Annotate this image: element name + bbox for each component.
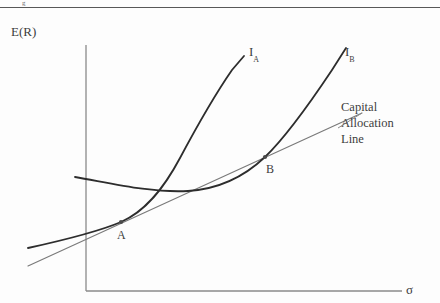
y-axis-label: E(R): [11, 25, 36, 39]
capital-allocation-line-annotation: Capital Allocation Line: [341, 99, 394, 147]
x-axis-label: σ: [406, 283, 413, 297]
tangency-point-b: [263, 155, 267, 159]
curve-label-ib-subscript: B: [349, 55, 354, 64]
chart-canvas: [0, 0, 440, 303]
cal-annotation-line-3: Line: [341, 131, 394, 147]
tangency-point-a: [119, 220, 123, 224]
cal-annotation-line-1: Capital: [341, 99, 394, 115]
figure-root: g E(R) σ IA IB A B Capital Allocation Li…: [0, 0, 440, 303]
cal-annotation-line-2: Allocation: [341, 115, 394, 131]
point-label-b: B: [266, 163, 274, 175]
point-label-a: A: [117, 229, 126, 241]
curve-label-ia-subscript: A: [253, 55, 259, 64]
curve-label-ib: IB: [345, 45, 355, 64]
indifference-curve-ia: [28, 56, 244, 248]
curve-label-ia: IA: [249, 45, 259, 64]
indifference-curve-ib: [75, 48, 346, 191]
